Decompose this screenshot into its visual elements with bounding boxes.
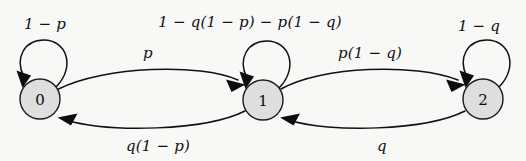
- edge-2-to-1-edge: [280, 111, 465, 128]
- state-node-2-label: 2: [478, 91, 488, 109]
- edge-1-to-2-label: p(1 − q): [338, 44, 402, 62]
- edge-2-to-1-path: [288, 111, 465, 128]
- state-node-1-label: 1: [258, 92, 268, 110]
- self-loop-2-label: 1 − q: [458, 17, 500, 35]
- edge-0-to-1-edge: [59, 69, 246, 92]
- edge-1-to-2-path: [281, 69, 458, 89]
- edge-1-to-0-arrowhead: [58, 114, 78, 126]
- self-loop-1-label: 1 − q(1 − p) − p(1 − q): [158, 13, 341, 31]
- edge-0-to-1-label: p: [143, 44, 153, 62]
- state-node-0[interactable]: 0: [20, 79, 60, 119]
- edge-2-to-1-arrowhead: [280, 114, 300, 126]
- self-loop-0-label: 1 − p: [24, 15, 66, 33]
- state-transition-diagram: 0 1 2 1 − p p q(1 − p) 1 − q(1 − p) − p(…: [0, 0, 526, 161]
- edge-1-to-2-edge: [281, 69, 466, 92]
- edge-0-to-1-path: [59, 69, 239, 89]
- state-node-1[interactable]: 1: [243, 80, 283, 120]
- edge-1-to-2-arrowhead: [446, 80, 466, 93]
- state-node-2[interactable]: 2: [463, 79, 503, 119]
- edge-1-to-0-label: q(1 − p): [126, 137, 190, 155]
- state-node-0-label: 0: [35, 91, 45, 109]
- edge-1-to-0-edge: [58, 111, 246, 128]
- edge-1-to-0-path: [66, 111, 246, 128]
- edge-0-to-1-arrowhead: [226, 80, 246, 93]
- edge-2-to-1-label: q: [377, 137, 387, 155]
